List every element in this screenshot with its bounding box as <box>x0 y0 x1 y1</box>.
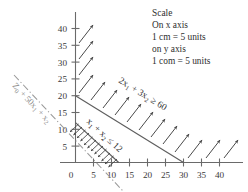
y-tick-label: 5 <box>62 142 67 152</box>
constraint-1-label: 2x1 + 3x2 ≥ 60 <box>116 75 169 114</box>
x-tick-label: 5 <box>91 170 96 180</box>
scale-legend-line-1: On x axis <box>152 20 188 30</box>
right-region-arrows <box>188 140 238 158</box>
svg-text:2x1 + 3x2 ≥ 60: 2x1 + 3x2 ≥ 60 <box>116 75 169 114</box>
constraint-1-end: ≥ 60 <box>147 94 169 113</box>
svg-text:Z0 + 50x1 + x2: Z0 + 50x1 + x2 <box>10 81 53 126</box>
y-tick-label: 35 <box>58 41 68 51</box>
y-tick-label: 20 <box>58 91 68 101</box>
scale-legend: Scale On x axis 1 cm = 5 units on y axis… <box>152 8 211 66</box>
y-tick-label: 15 <box>58 108 68 118</box>
x-tick-label: 20 <box>143 170 153 180</box>
x-tick-label: 40 <box>215 170 225 180</box>
scale-legend-line-4: 1 com = 5 units <box>152 56 211 66</box>
x-axis-tick-labels: 0 5 10 15 20 25 30 35 40 <box>69 170 225 180</box>
x-tick-label: 0 <box>69 170 74 180</box>
objective-function-label: Z0 + 50x1 + x2 <box>10 81 53 126</box>
y-tick-label: 25 <box>58 74 68 84</box>
linear-programming-graph: 40 35 30 25 20 15 10 5 0 5 10 15 20 25 3… <box>0 0 248 192</box>
scale-legend-title: Scale <box>152 8 172 18</box>
scale-legend-line-3: on y axis <box>152 44 186 54</box>
y-tick-label: 30 <box>58 58 68 68</box>
x-tick-label: 15 <box>125 170 135 180</box>
graph-canvas: 40 35 30 25 20 15 10 5 0 5 10 15 20 25 3… <box>0 0 248 192</box>
y-axis-tick-labels: 40 35 30 25 20 15 10 5 <box>58 24 68 152</box>
upper-region-arrows <box>79 25 93 75</box>
scale-legend-line-2: 1 cm = 5 units <box>152 32 206 42</box>
x-tick-label: 25 <box>161 170 171 180</box>
x-tick-label: 30 <box>179 170 189 180</box>
y-tick-label: 40 <box>58 24 68 34</box>
x-tick-label: 35 <box>197 170 207 180</box>
